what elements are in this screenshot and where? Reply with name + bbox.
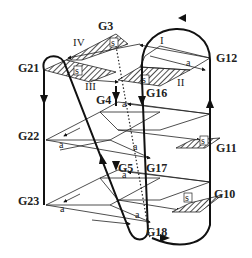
top-layer: s s s a [44, 33, 210, 86]
label-g21: G21 [18, 61, 39, 75]
label-g10: G10 [214, 187, 235, 201]
diagram-canvas: s s s a s a a a s a a a [0, 0, 252, 258]
mark-s-g11: s [201, 135, 205, 146]
label-quadrant-iii: III [85, 80, 96, 92]
arrow-g11-up [206, 98, 214, 108]
mark-a-top: a [186, 57, 191, 68]
label-g5: G5 [118, 161, 133, 175]
label-g12: G12 [216, 51, 237, 65]
label-g17: G17 [146, 161, 167, 175]
label-g4: G4 [96, 93, 111, 107]
label-g18: G18 [146, 225, 167, 239]
arrow-g21-down [40, 95, 48, 105]
label-g3: G3 [98, 19, 113, 33]
bottom-layer [46, 170, 222, 224]
mark-a-g23: a [60, 203, 65, 214]
label-g11: G11 [216, 141, 237, 155]
mark-s-g10: s [185, 192, 189, 203]
label-quadrant-i: I [160, 34, 164, 46]
plain-sheet-i [140, 46, 210, 70]
helix-sheet-diagram: s s s a s a a a s a a a [0, 0, 252, 258]
arrow-g4-down [112, 92, 120, 102]
label-g22: G22 [18, 129, 39, 143]
label-quadrant-iv: IV [73, 36, 85, 48]
label-g16: G16 [146, 86, 167, 100]
mark-s-g3: s [111, 37, 115, 48]
mark-a-g4: a [122, 98, 127, 109]
arrow-g12-top [178, 14, 186, 22]
label-g23: G23 [18, 194, 39, 208]
mark-a-g22: a [59, 139, 64, 150]
mark-a-g18: a [135, 209, 140, 220]
label-quadrant-ii: II [177, 76, 185, 88]
mark-s-g21: s [75, 65, 79, 76]
